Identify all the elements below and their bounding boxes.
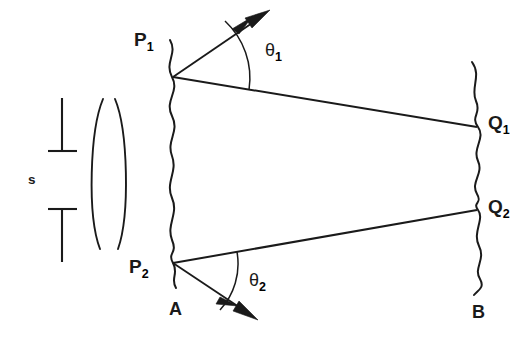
label-point-p2: P2 bbox=[129, 257, 149, 277]
label-angle-theta2-base: θ bbox=[249, 270, 259, 290]
arrow-theta1-shaft bbox=[173, 19, 258, 77]
arrow-theta1 bbox=[173, 10, 270, 77]
surface-b-wavy-line bbox=[472, 62, 482, 295]
arrow-theta2-head bbox=[233, 301, 258, 320]
label-angle-theta2-subscript: 2 bbox=[259, 280, 266, 294]
label-point-p2-subscript: 2 bbox=[142, 267, 149, 281]
label-angle-theta2: θ2 bbox=[249, 271, 266, 290]
optics-diagram: s P1 P2 Q1 Q2 θ1 θ2 A B bbox=[0, 0, 532, 341]
ray-p1-to-q1 bbox=[173, 77, 477, 127]
label-point-q1: Q1 bbox=[488, 113, 510, 133]
label-surface-a: A bbox=[169, 300, 182, 318]
label-point-q1-subscript: 1 bbox=[503, 123, 510, 137]
ray-p2-to-q2 bbox=[173, 210, 477, 263]
label-source-gap: s bbox=[28, 173, 36, 187]
label-point-p2-base: P bbox=[129, 256, 142, 277]
label-angle-theta1-subscript: 1 bbox=[275, 50, 282, 64]
label-point-p1: P1 bbox=[134, 30, 154, 50]
label-point-p1-subscript: 1 bbox=[147, 40, 154, 54]
label-angle-theta1: θ1 bbox=[265, 41, 282, 60]
arrow-theta2 bbox=[173, 263, 258, 320]
lens-right-surface bbox=[115, 99, 126, 249]
biconvex-lens bbox=[92, 99, 126, 249]
label-point-q2-subscript: 2 bbox=[503, 207, 510, 221]
label-angle-theta1-base: θ bbox=[265, 40, 275, 60]
label-point-q2-base: Q bbox=[488, 196, 503, 217]
source-slit bbox=[48, 98, 77, 262]
lens-left-surface bbox=[92, 99, 103, 249]
label-point-p1-base: P bbox=[134, 29, 147, 50]
label-point-q1-base: Q bbox=[488, 112, 503, 133]
label-point-q2: Q2 bbox=[488, 197, 510, 217]
label-surface-b: B bbox=[472, 303, 485, 321]
